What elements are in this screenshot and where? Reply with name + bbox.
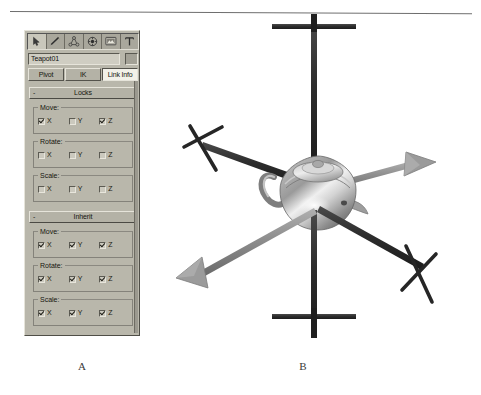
locks-scale-label: Scale: bbox=[38, 172, 61, 180]
inherit-scale-y[interactable]: Y bbox=[69, 309, 100, 317]
locks-move-y-checkbox[interactable] bbox=[69, 118, 76, 125]
modify-tab[interactable] bbox=[47, 34, 66, 49]
inherit-move-x-checkbox[interactable] bbox=[38, 242, 45, 249]
locks-move-z[interactable]: Z bbox=[99, 117, 130, 125]
object-name-input[interactable]: Teapot01 bbox=[28, 53, 120, 65]
ik-button[interactable]: IK bbox=[65, 68, 101, 81]
pivot-button[interactable]: Pivot bbox=[28, 68, 64, 81]
inherit-move-z-label: Z bbox=[108, 241, 112, 249]
locks-scale-x-label: X bbox=[47, 185, 52, 193]
locks-move-group: Move: X Y Z bbox=[33, 107, 133, 134]
hierarchy-icon bbox=[68, 36, 80, 47]
locks-rollout-header[interactable]: - Locks bbox=[29, 87, 137, 99]
inherit-move-y-checkbox[interactable] bbox=[69, 242, 76, 249]
inherit-move-y[interactable]: Y bbox=[69, 241, 100, 249]
z-axis-upper bbox=[272, 14, 356, 170]
inherit-move-z-checkbox[interactable] bbox=[99, 242, 106, 249]
free-axis-lower-left bbox=[176, 208, 317, 288]
locks-rotate-label: Rotate: bbox=[38, 138, 65, 146]
locks-move-x-checkbox[interactable] bbox=[38, 118, 45, 125]
inherit-rollout-title: Inherit bbox=[30, 212, 136, 222]
monitor-icon bbox=[105, 36, 117, 47]
inherit-scale-y-label: Y bbox=[78, 309, 83, 317]
locks-rotate-x-label: X bbox=[47, 151, 52, 159]
inherit-move-group: Move: X Y Z bbox=[33, 231, 133, 258]
inherit-scale-y-checkbox[interactable] bbox=[69, 310, 76, 317]
locks-scale-z-checkbox[interactable] bbox=[99, 186, 106, 193]
locks-move-label: Move: bbox=[38, 104, 61, 112]
inherit-rotate-y[interactable]: Y bbox=[69, 275, 100, 283]
inherit-rotate-y-label: Y bbox=[78, 275, 83, 283]
locks-scale-y-label: Y bbox=[78, 185, 83, 193]
command-panel-scrollbar[interactable] bbox=[134, 81, 138, 333]
locks-scale-x[interactable]: X bbox=[38, 185, 69, 193]
pencil-icon bbox=[49, 36, 61, 47]
inherit-move-axes: X Y Z bbox=[38, 241, 130, 249]
inherit-rotate-axes: X Y Z bbox=[38, 275, 130, 283]
inherit-scale-z-label: Z bbox=[108, 309, 112, 317]
locks-rotate-group: Rotate: X Y Z bbox=[33, 141, 133, 168]
inherit-rotate-y-checkbox[interactable] bbox=[69, 276, 76, 283]
object-name-row: Teapot01 bbox=[28, 53, 138, 65]
inherit-move-x-label: X bbox=[47, 241, 52, 249]
locks-move-y[interactable]: Y bbox=[69, 117, 100, 125]
create-tab[interactable] bbox=[28, 34, 47, 49]
locks-scale-y-checkbox[interactable] bbox=[69, 186, 76, 193]
locks-move-y-label: Y bbox=[78, 117, 83, 125]
inherit-scale-axes: X Y Z bbox=[38, 309, 130, 317]
display-tab[interactable] bbox=[102, 34, 121, 49]
locks-rotate-axes: X Y Z bbox=[38, 151, 130, 159]
locks-scale-y[interactable]: Y bbox=[69, 185, 100, 193]
inherit-rotate-z[interactable]: Z bbox=[99, 275, 130, 283]
locks-move-x[interactable]: X bbox=[38, 117, 69, 125]
hammer-t-icon bbox=[124, 36, 135, 47]
arrow-cursor-icon bbox=[31, 36, 42, 47]
object-color-swatch[interactable] bbox=[125, 53, 138, 65]
utilities-tab[interactable] bbox=[121, 34, 139, 49]
locks-rotate-x-checkbox[interactable] bbox=[38, 152, 45, 159]
locks-rotate-y-checkbox[interactable] bbox=[69, 152, 76, 159]
locks-scale-axes: X Y Z bbox=[38, 185, 130, 193]
inherit-scale-x-label: X bbox=[47, 309, 52, 317]
locks-scale-x-checkbox[interactable] bbox=[38, 186, 45, 193]
locks-rotate-z-checkbox[interactable] bbox=[99, 152, 106, 159]
figure-caption-a: A bbox=[60, 360, 104, 372]
wheel-icon bbox=[87, 36, 98, 47]
inherit-scale-x-checkbox[interactable] bbox=[38, 310, 45, 317]
locks-move-z-label: Z bbox=[108, 117, 112, 125]
locks-scale-z[interactable]: Z bbox=[99, 185, 130, 193]
locks-rotate-y[interactable]: Y bbox=[69, 151, 100, 159]
inherit-scale-z[interactable]: Z bbox=[99, 309, 130, 317]
motion-tab[interactable] bbox=[84, 34, 103, 49]
inherit-move-x[interactable]: X bbox=[38, 241, 69, 249]
inherit-move-label: Move: bbox=[38, 228, 61, 236]
inherit-move-z[interactable]: Z bbox=[99, 241, 130, 249]
inherit-rotate-x-checkbox[interactable] bbox=[38, 276, 45, 283]
hierarchy-tab[interactable] bbox=[65, 34, 84, 49]
inherit-scale-group: Scale: X Y Z bbox=[33, 299, 133, 326]
locks-move-x-label: X bbox=[47, 117, 52, 125]
locks-rotate-y-label: Y bbox=[78, 151, 83, 159]
inherit-scale-z-checkbox[interactable] bbox=[99, 310, 106, 317]
locks-move-axes: X Y Z bbox=[38, 117, 130, 125]
inherit-rotate-label: Rotate: bbox=[38, 262, 65, 270]
link-info-button[interactable]: Link Info bbox=[102, 68, 138, 81]
inherit-rollout-header[interactable]: - Inherit bbox=[29, 211, 137, 223]
inherit-rotate-z-checkbox[interactable] bbox=[99, 276, 106, 283]
locks-rotate-z[interactable]: Z bbox=[99, 151, 130, 159]
inherit-rotate-x[interactable]: X bbox=[38, 275, 69, 283]
locks-rotate-x[interactable]: X bbox=[38, 151, 69, 159]
teapot-axis-illustration bbox=[168, 14, 468, 344]
inherit-rotate-group: Rotate: X Y Z bbox=[33, 265, 133, 292]
command-panel-tab-strip bbox=[27, 33, 139, 50]
locks-scale-z-label: Z bbox=[108, 185, 112, 193]
locks-move-z-checkbox[interactable] bbox=[99, 118, 106, 125]
inherit-rotate-x-label: X bbox=[47, 275, 52, 283]
inherit-move-y-label: Y bbox=[78, 241, 83, 249]
hierarchy-command-panel: Teapot01 Pivot IK Link Info - Locks Move… bbox=[24, 30, 140, 336]
locks-rollout-title: Locks bbox=[30, 88, 136, 98]
figure-caption-b: B bbox=[281, 360, 325, 372]
locks-rotate-z-label: Z bbox=[108, 151, 112, 159]
inherit-scale-x[interactable]: X bbox=[38, 309, 69, 317]
locks-scale-group: Scale: X Y Z bbox=[33, 175, 133, 202]
